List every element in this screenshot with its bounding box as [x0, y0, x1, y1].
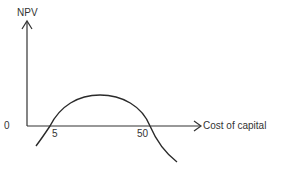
x-tick-5: 5: [52, 129, 58, 139]
x-tick-50: 50: [137, 129, 148, 139]
npv-chart: [0, 0, 284, 171]
x-axis-label: Cost of capital: [203, 121, 266, 131]
y-axis-label: NPV: [17, 8, 38, 18]
origin-label: 0: [4, 121, 10, 131]
